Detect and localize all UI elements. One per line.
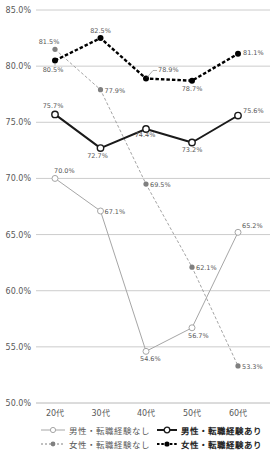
- data-label: 78.7%: [182, 85, 203, 93]
- data-label: 54.6%: [140, 355, 161, 363]
- data-point-marker[interactable]: [143, 181, 148, 186]
- x-axis-labels: 20代30代40代50代60代: [46, 408, 247, 418]
- data-point-marker[interactable]: [235, 229, 241, 235]
- data-label: 56.7%: [188, 332, 209, 340]
- data-point-marker[interactable]: [52, 175, 58, 181]
- series-1: [52, 47, 240, 369]
- data-point-marker[interactable]: [235, 51, 241, 57]
- legend-label: 女性・転職経験なし: [69, 438, 150, 450]
- y-tick-label: 60.0%: [6, 287, 32, 296]
- data-label: 74.4%: [135, 131, 156, 139]
- data-point-marker[interactable]: [52, 47, 57, 52]
- data-point-marker[interactable]: [189, 139, 195, 145]
- data-point-marker[interactable]: [98, 208, 104, 214]
- legend-item-female-changed[interactable]: 女性・転職経験あり: [156, 438, 262, 450]
- legend-label: 女性・転職経験あり: [181, 438, 262, 450]
- legend-thick-line-hollow-marker-icon: [156, 426, 178, 434]
- y-axis-labels: 50.0%55.0%60.0%65.0%70.0%75.0%80.0%85.0%: [6, 6, 32, 408]
- legend-item-male-no-change[interactable]: 男性・転職経験なし: [40, 424, 150, 436]
- data-label: 69.5%: [150, 181, 171, 189]
- x-tick-label: 40代: [137, 408, 155, 418]
- data-point-marker[interactable]: [52, 58, 58, 64]
- data-label: 73.2%: [182, 146, 203, 154]
- y-tick-label: 75.0%: [6, 118, 32, 127]
- data-point-marker[interactable]: [98, 35, 104, 41]
- data-point-marker[interactable]: [235, 363, 240, 368]
- data-label: 80.5%: [43, 66, 64, 74]
- series-3: [52, 35, 241, 84]
- data-point-marker[interactable]: [98, 87, 103, 92]
- legend-item-male-changed[interactable]: 男性・転職経験あり: [156, 424, 262, 436]
- data-label: 77.9%: [105, 87, 126, 95]
- data-label: 72.7%: [87, 152, 108, 160]
- data-point-marker[interactable]: [189, 78, 195, 84]
- data-label: 70.0%: [54, 167, 75, 175]
- data-label: 75.6%: [243, 107, 264, 115]
- data-point-marker[interactable]: [189, 325, 195, 331]
- legend-label: 男性・転職経験あり: [181, 424, 262, 436]
- data-label: 67.1%: [105, 208, 126, 216]
- data-label: 62.1%: [196, 264, 217, 272]
- data-point-marker[interactable]: [52, 111, 58, 117]
- x-tick-label: 30代: [91, 408, 109, 418]
- y-tick-label: 65.0%: [6, 231, 32, 240]
- data-point-marker[interactable]: [189, 265, 194, 270]
- data-point-marker[interactable]: [97, 145, 103, 151]
- x-tick-label: 60代: [229, 408, 247, 418]
- data-label: 78.9%: [158, 66, 179, 74]
- y-tick-label: 70.0%: [6, 174, 32, 183]
- legend-label: 男性・転職経験なし: [69, 424, 150, 436]
- y-tick-label: 85.0%: [6, 6, 32, 15]
- x-tick-label: 50代: [183, 408, 201, 418]
- y-tick-label: 80.0%: [6, 62, 32, 71]
- data-point-marker[interactable]: [143, 348, 149, 354]
- legend-dashed-line-filled-marker-icon: [40, 440, 66, 448]
- data-label: 65.2%: [242, 222, 263, 230]
- gridlines: [36, 10, 270, 403]
- y-tick-label: 55.0%: [6, 343, 32, 352]
- legend-line-hollow-marker-icon: [40, 426, 66, 434]
- data-label: 53.3%: [242, 363, 263, 371]
- y-tick-label: 50.0%: [6, 399, 32, 408]
- data-label: 81.5%: [39, 38, 60, 46]
- data-label: 75.7%: [43, 102, 64, 110]
- legend-thick-dashed-line-filled-marker-icon: [156, 440, 178, 448]
- legend-item-female-no-change[interactable]: 女性・転職経験なし: [40, 438, 150, 450]
- data-label: 81.1%: [243, 49, 264, 57]
- data-label: 82.5%: [90, 27, 111, 35]
- data-point-marker[interactable]: [235, 112, 241, 118]
- series-layer: [52, 35, 241, 368]
- x-tick-label: 20代: [46, 408, 64, 418]
